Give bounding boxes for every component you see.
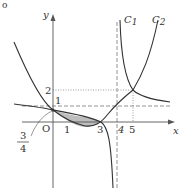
fraction-numerator: 3 (20, 130, 26, 141)
x-tick-1: 1 (64, 124, 70, 135)
x-tick-4: 4 (117, 124, 124, 135)
x-axis-arrow-icon (168, 120, 175, 125)
curve-c2 (14, 20, 158, 126)
corner-mark: o (2, 0, 7, 10)
x-tick-5: 5 (129, 124, 135, 135)
y-axis-arrow-icon (51, 14, 56, 21)
x-axis-label: x (173, 125, 179, 136)
origin-label: O (42, 123, 50, 134)
y-axis-label: y (42, 9, 49, 20)
y-tick-2: 2 (45, 85, 51, 96)
fraction-denominator: 4 (20, 143, 26, 154)
curve-c2-label: C2 (152, 14, 166, 27)
x-tick-3: 3 (97, 124, 103, 135)
curve-c1-right-branch (120, 20, 170, 102)
graph-diagram: o y x O 1 3 4 5 1 2 C1 C2 3 4 (0, 0, 184, 193)
curve-c1-label: C1 (124, 14, 137, 27)
y-tick-1: 1 (55, 95, 61, 106)
shaded-region (53, 110, 101, 127)
